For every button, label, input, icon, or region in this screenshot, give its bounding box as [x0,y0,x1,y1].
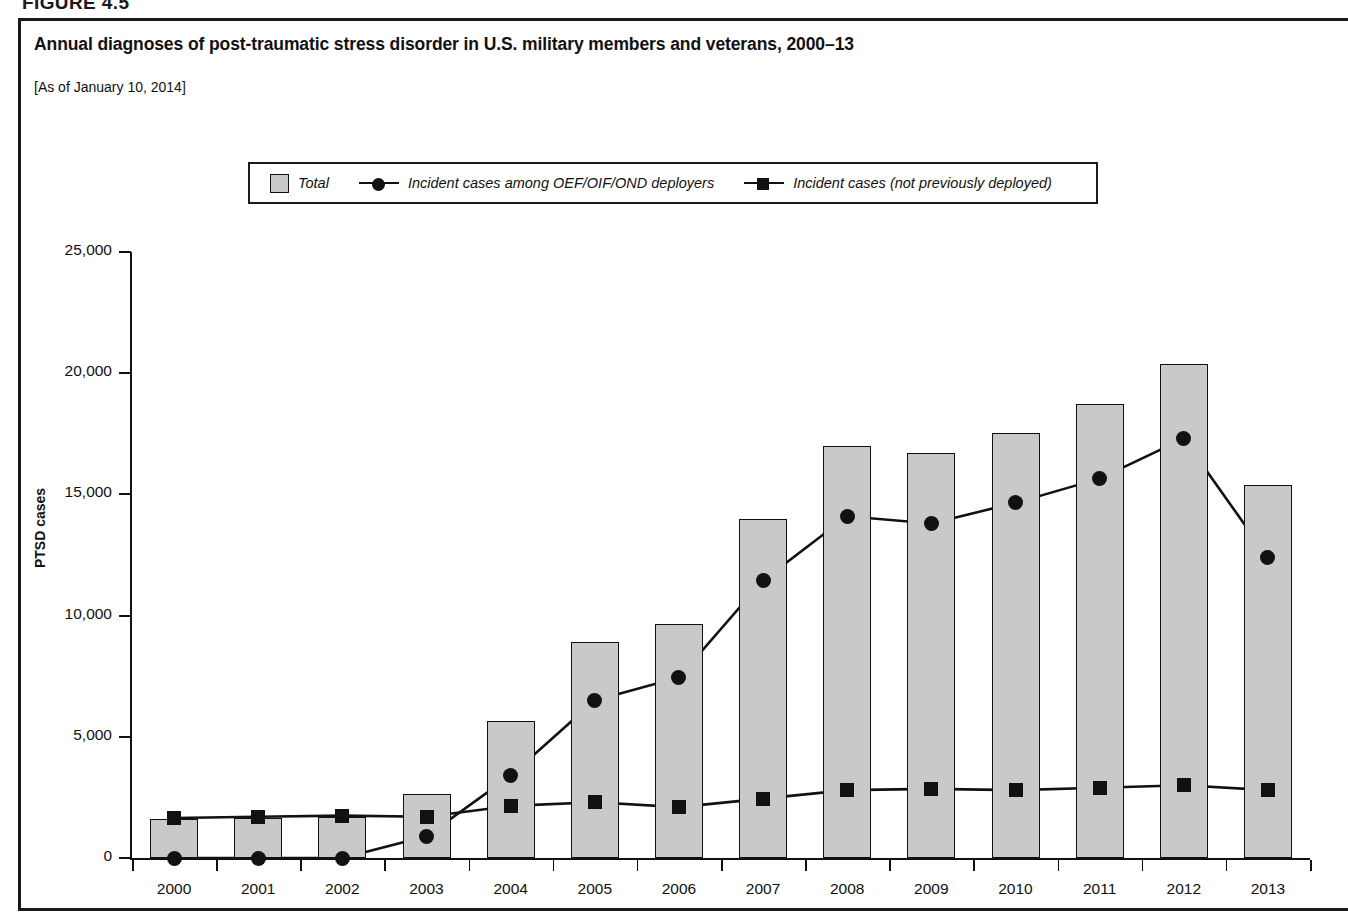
bar-total-2004 [487,721,535,858]
y-axis-tick-mark [119,372,131,374]
y-axis-tick-label: 15,000 [27,483,112,501]
data-point-not-deployed-2012 [1177,778,1191,792]
x-axis-tick-label: 2012 [1149,880,1219,898]
data-point-not-deployed-2010 [1009,783,1023,797]
x-axis-tick-mark [721,860,723,871]
bar-total-2013 [1244,485,1292,858]
data-point-not-deployed-2000 [167,811,181,825]
x-axis-tick-mark [469,860,471,871]
x-axis-tick-label: 2009 [896,880,966,898]
x-axis-tick-mark [1142,860,1144,871]
data-point-not-deployed-2007 [756,792,770,806]
bar-total-2006 [655,624,703,858]
x-axis-tick-label: 2010 [981,880,1051,898]
x-axis-tick-label: 2007 [728,880,798,898]
x-axis-tick-mark [553,860,555,871]
data-point-not-deployed-2006 [672,800,686,814]
x-axis-tick-label: 2006 [644,880,714,898]
y-axis-tick-label: 25,000 [27,241,112,259]
data-point-deployers-2000 [167,851,182,866]
x-axis-tick-mark [1310,860,1312,871]
x-axis-tick-label: 2005 [560,880,630,898]
data-point-not-deployed-2013 [1261,783,1275,797]
y-axis-tick-mark [119,251,131,253]
y-axis-tick-label: 10,000 [27,605,112,623]
y-axis-tick-mark [119,736,131,738]
x-axis-tick-mark [805,860,807,871]
data-point-not-deployed-2011 [1093,781,1107,795]
x-axis-tick-mark [1058,860,1060,871]
x-axis-tick-mark [384,860,386,871]
x-axis-tick-mark [216,860,218,871]
y-axis-line [130,252,132,860]
x-axis-tick-label: 2003 [392,880,462,898]
data-point-deployers-2001 [251,851,266,866]
data-point-not-deployed-2003 [420,810,434,824]
bar-total-2005 [571,642,619,858]
x-axis-tick-label: 2004 [476,880,546,898]
data-point-deployers-2002 [335,851,350,866]
bar-total-2009 [907,453,955,858]
x-axis-tick-label: 2013 [1233,880,1303,898]
y-axis-tick-mark [119,857,131,859]
y-axis-tick-mark [119,615,131,617]
x-axis-tick-label: 2008 [812,880,882,898]
data-point-not-deployed-2001 [251,810,265,824]
y-axis-tick-label: 0 [27,847,112,865]
x-axis-tick-mark [300,860,302,871]
x-axis-tick-mark [132,860,134,871]
x-axis-line [130,858,1310,860]
data-point-deployers-2008 [840,509,855,524]
x-axis-tick-mark [637,860,639,871]
x-axis-tick-label: 2001 [223,880,293,898]
data-point-not-deployed-2008 [840,783,854,797]
x-axis-tick-mark [1226,860,1228,871]
bar-total-2007 [739,519,787,858]
data-point-deployers-2009 [924,516,939,531]
data-point-deployers-2003 [419,829,434,844]
y-axis-tick-label: 5,000 [27,726,112,744]
x-axis-tick-mark [889,860,891,871]
y-axis-tick-mark [119,493,131,495]
data-point-deployers-2007 [756,573,771,588]
data-point-not-deployed-2005 [588,795,602,809]
x-axis-tick-mark [973,860,975,871]
bar-total-2003 [403,794,451,858]
y-axis-tick-label: 20,000 [27,362,112,380]
data-point-not-deployed-2002 [335,809,349,823]
data-point-not-deployed-2004 [504,799,518,813]
data-point-not-deployed-2009 [924,782,938,796]
x-axis-tick-label: 2000 [139,880,209,898]
x-axis-tick-label: 2002 [307,880,377,898]
x-axis-tick-label: 2011 [1065,880,1135,898]
